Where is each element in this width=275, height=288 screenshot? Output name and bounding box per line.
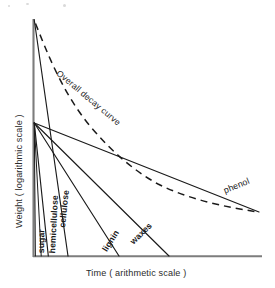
- x-axis-title: Time ( arithmetic scale ): [86, 268, 186, 278]
- series-label-sugar: sugar: [36, 229, 46, 253]
- decay-curve-figure: Weight ( logarithmic scale ) Time ( arit…: [0, 0, 275, 288]
- y-axis-title: Weight ( logarithmic scale ): [14, 114, 24, 228]
